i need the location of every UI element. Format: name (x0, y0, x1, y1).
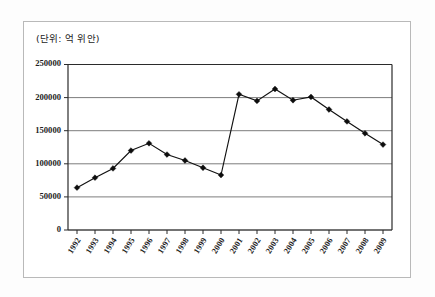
x-tick-label: 1996 (138, 236, 155, 255)
series-line (77, 89, 383, 188)
axis-lines (68, 65, 392, 231)
y-tick-label: 150000 (35, 125, 61, 135)
data-point-marker (182, 158, 188, 164)
x-tick-label: 1999 (192, 236, 209, 255)
data-series (74, 86, 386, 190)
x-tick-label: 2004 (282, 236, 299, 256)
x-tick-label: 2003 (264, 236, 281, 255)
x-tick-label: 1993 (84, 236, 101, 255)
x-tick-label: 1997 (156, 236, 173, 255)
x-tick-label: 2001 (228, 236, 245, 255)
x-tick-label: 2005 (300, 236, 317, 255)
data-point-marker (92, 175, 98, 181)
figure-root: (단위: 억 위안) 05000010000015000020000025000… (0, 0, 435, 297)
data-point-marker (146, 140, 152, 146)
data-point-marker (290, 97, 296, 103)
y-tick-label: 100000 (35, 158, 61, 168)
y-tick-label: 50000 (40, 191, 61, 201)
x-tick-label: 2008 (354, 236, 371, 255)
data-point-marker (380, 142, 386, 148)
x-tick-label: 2007 (336, 236, 353, 255)
data-point-marker (236, 91, 242, 97)
y-tick-label: 200000 (35, 92, 61, 102)
x-axis-ticks: 1992199319941995199619971998199920002001… (66, 230, 389, 255)
line-chart: 050000100000150000200000250000 199219931… (0, 0, 435, 297)
x-tick-label: 1992 (66, 236, 83, 255)
y-tick-label: 250000 (35, 58, 61, 68)
chart-plot-area: 050000100000150000200000250000 199219931… (0, 0, 435, 297)
data-point-marker (74, 185, 80, 191)
data-point-marker (200, 165, 206, 171)
data-point-marker (164, 152, 170, 158)
x-tick-label: 2009 (372, 236, 389, 255)
x-tick-label: 1998 (174, 236, 191, 255)
data-point-marker (218, 172, 224, 178)
x-tick-label: 2000 (210, 236, 227, 255)
y-axis-ticks: 050000100000150000200000250000 (35, 58, 68, 234)
x-tick-label: 2006 (318, 236, 335, 255)
gridlines (68, 65, 392, 231)
x-tick-label: 2002 (246, 236, 263, 255)
y-tick-label: 0 (57, 224, 61, 234)
x-tick-label: 1994 (102, 236, 119, 256)
x-tick-label: 1995 (120, 236, 137, 255)
